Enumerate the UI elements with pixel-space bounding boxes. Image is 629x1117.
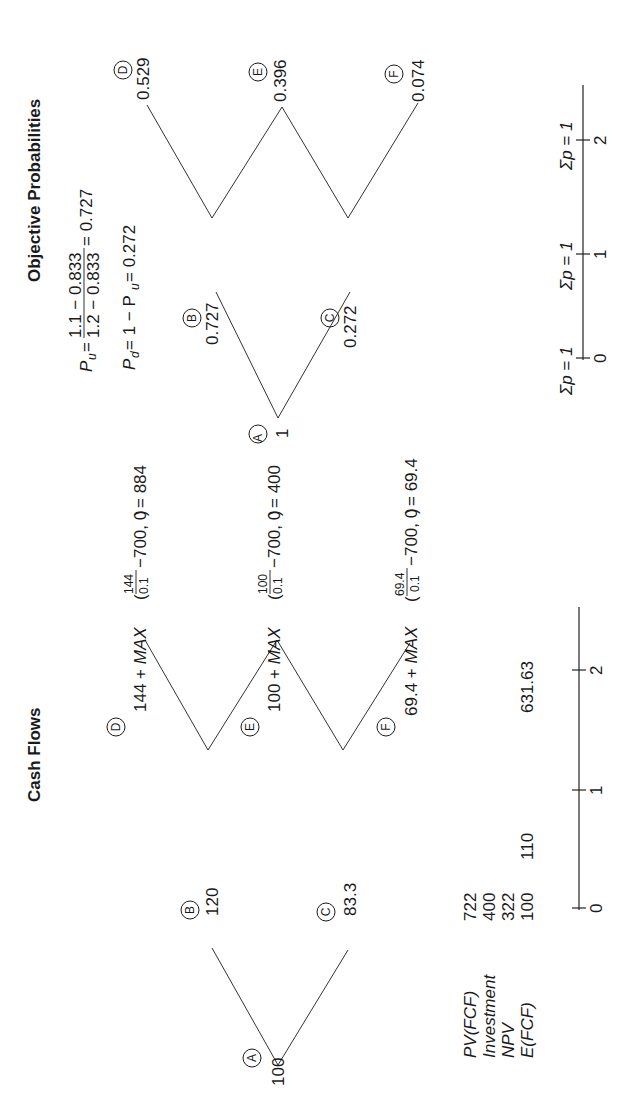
node-label: E bbox=[251, 68, 265, 76]
node-formula-tail: −700, 0 bbox=[265, 511, 284, 568]
fraction-denominator: 0.1 bbox=[137, 577, 151, 594]
sum-probability-label: Σp = 1 bbox=[557, 347, 576, 396]
cf-tree-level1 bbox=[212, 948, 348, 1065]
node-formula-tail: −700, 0 bbox=[131, 511, 150, 568]
node-label: F bbox=[379, 723, 393, 730]
fraction-denominator: 0.1 bbox=[271, 577, 285, 594]
axis-tick-label: 1 bbox=[587, 786, 606, 795]
prob-node-c: C 0.272 bbox=[321, 305, 360, 348]
summary-value-pv-fcf: 722 bbox=[461, 893, 480, 921]
binomial-tree-figure: Objective Probabilities P u = 1.1 − 0.83… bbox=[0, 0, 629, 1117]
node-result: = 400 bbox=[265, 465, 284, 508]
node-label: B bbox=[183, 906, 197, 914]
prob-node-d: D 0.529 bbox=[114, 57, 153, 100]
node-label: D bbox=[116, 65, 130, 74]
cf-node-b: B 120 bbox=[181, 888, 222, 919]
axis-tick-label: 2 bbox=[591, 136, 610, 145]
node-formula: 100 + MAX bbox=[265, 627, 284, 712]
prob-time-axis: 0 1 2 Σp = 1 Σp = 1 Σp = 1 bbox=[557, 85, 610, 396]
node-formula: 69.4 + MAX bbox=[402, 626, 421, 716]
summary-value-investment: 400 bbox=[480, 893, 499, 921]
cf-node-a: A 100 bbox=[243, 1049, 288, 1086]
node-value: 0.074 bbox=[409, 59, 428, 102]
cash-flows-panel: Cash Flows D 144 + MAX ( 144 0.1 −700, 0… bbox=[25, 458, 606, 1086]
node-value: 120 bbox=[203, 888, 222, 916]
axis-tick-label: 1 bbox=[591, 250, 610, 259]
axis-tick-label: 2 bbox=[587, 666, 606, 675]
prob-node-e: E 0.396 bbox=[249, 59, 290, 102]
summary-value-e-fcf: 100 bbox=[518, 893, 537, 921]
node-value: 0.727 bbox=[203, 302, 222, 345]
node-label: C bbox=[319, 907, 333, 916]
period-1-value: 110 bbox=[518, 833, 537, 860]
valuation-summary: PV(FCF) Investment NPV E(FCF) 722 400 32… bbox=[461, 893, 537, 1058]
node-value: 1 bbox=[273, 429, 292, 438]
pd-lhs-sub: d bbox=[128, 351, 142, 358]
prob-node-b: B 0.727 bbox=[183, 302, 222, 345]
fraction-numerator: 100 bbox=[256, 574, 270, 594]
summary-label-pv-fcf: PV(FCF) bbox=[461, 991, 480, 1058]
prob-node-a: A 1 bbox=[249, 425, 292, 443]
pu-result: = 0.727 bbox=[77, 189, 96, 246]
node-value: 0.396 bbox=[271, 59, 290, 102]
pd-rhs: = 1 − P bbox=[120, 295, 139, 350]
pu-lhs: P bbox=[77, 360, 96, 372]
pd-result: = 0.272 bbox=[120, 225, 139, 282]
cf-time-axis: 0 1 2 bbox=[572, 607, 606, 913]
node-value: 83.3 bbox=[341, 883, 360, 916]
paren-close: ) bbox=[131, 510, 150, 516]
node-result: = 884 bbox=[131, 465, 150, 508]
pd-lhs: P bbox=[120, 358, 139, 370]
node-label: D bbox=[109, 722, 123, 731]
summary-value-npv: 322 bbox=[499, 893, 518, 921]
node-result: = 69.4 bbox=[402, 458, 421, 506]
cf-node-e: E 100 + MAX ( 100 0.1 −700, 0 ) = 400 bbox=[241, 465, 285, 736]
period-2-value: 631.63 bbox=[518, 661, 537, 713]
fraction-numerator: 69.4 bbox=[393, 572, 407, 596]
node-label: B bbox=[185, 314, 199, 322]
pu-equals: = bbox=[77, 342, 96, 352]
node-label: A bbox=[251, 434, 265, 442]
axis-tick-label: 0 bbox=[591, 354, 610, 363]
node-value: 0.529 bbox=[134, 57, 153, 100]
pu-denominator: 1.2 − 0.833 bbox=[84, 252, 103, 338]
probabilities-title: Objective Probabilities bbox=[25, 99, 44, 282]
node-formula-tail: −700, 0 bbox=[402, 509, 421, 566]
pu-formula: P u = 1.1 − 0.833 1.2 − 0.833 = 0.727 bbox=[66, 189, 103, 372]
objective-probabilities-panel: Objective Probabilities P u = 1.1 − 0.83… bbox=[25, 57, 610, 443]
prob-node-f: F 0.074 bbox=[385, 59, 428, 102]
node-formula: 144 + MAX bbox=[131, 627, 150, 712]
fraction-denominator: 0.1 bbox=[408, 575, 422, 592]
cash-flows-title: Cash Flows bbox=[25, 708, 44, 802]
paren-close: ) bbox=[265, 510, 284, 516]
pd-formula: P d = 1 − P u = 0.272 bbox=[120, 225, 142, 370]
node-value: 0.272 bbox=[341, 305, 360, 348]
prob-tree-level1 bbox=[216, 292, 350, 418]
pu-lhs-sub: u bbox=[85, 353, 99, 360]
cf-node-c: C 83.3 bbox=[317, 883, 360, 921]
sum-probability-label: Σp = 1 bbox=[557, 242, 576, 291]
cf-node-f: F 69.4 + MAX ( 69.4 0.1 −700, 0 ) = 69.4 bbox=[377, 458, 422, 736]
node-label: F bbox=[387, 70, 401, 77]
summary-label-e-fcf: E(FCF) bbox=[518, 1002, 537, 1058]
fraction-numerator: 144 bbox=[122, 574, 136, 594]
node-label: E bbox=[243, 723, 257, 731]
node-value: 100 bbox=[269, 1058, 288, 1086]
summary-label-investment: Investment bbox=[480, 974, 499, 1058]
paren-close: ) bbox=[402, 508, 421, 514]
node-label: A bbox=[245, 1054, 259, 1062]
node-label: C bbox=[323, 313, 337, 322]
pd-rhs-sub: u bbox=[128, 283, 142, 290]
summary-label-npv: NPV bbox=[499, 1021, 518, 1058]
sum-probability-label: Σp = 1 bbox=[557, 122, 576, 171]
axis-tick-label: 0 bbox=[587, 904, 606, 913]
pu-numerator: 1.1 − 0.833 bbox=[66, 252, 85, 338]
prob-tree-level2 bbox=[147, 103, 418, 218]
cf-node-d: D 144 + MAX ( 144 0.1 −700, 0 ) = 884 bbox=[107, 465, 151, 736]
